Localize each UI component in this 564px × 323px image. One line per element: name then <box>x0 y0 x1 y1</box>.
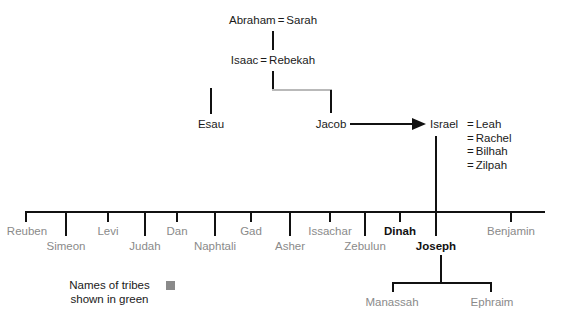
person-isaac-rebekah: Isaac=Rebekah <box>231 54 315 67</box>
person-sarah-label: Sarah <box>286 14 317 26</box>
israel-wife-row-3: =Bilhah <box>465 145 512 159</box>
equals-sign-wife-2: = <box>465 132 476 144</box>
equals-sign-wife-3: = <box>465 145 476 157</box>
equals-sign-wife-4: = <box>465 159 476 171</box>
grandchild-manassah: Manassah <box>365 296 418 308</box>
child-dinah: Dinah <box>384 225 416 237</box>
person-zilpah-label: Zilpah <box>476 159 507 171</box>
arrow-jacob-to-israel-head <box>412 118 426 130</box>
israel-wife-row-1: =Leah <box>465 118 512 132</box>
israel-wife-row-2: =Rachel <box>465 132 512 146</box>
child-benjamin: Benjamin <box>487 225 535 237</box>
person-bilhah-label: Bilhah <box>476 145 508 157</box>
child-issachar: Issachar <box>308 225 351 237</box>
child-joseph: Joseph <box>416 240 456 252</box>
equals-sign-isaac: = <box>258 54 269 66</box>
person-rachel-label: Rachel <box>476 132 512 144</box>
person-abraham-label: Abraham <box>229 14 276 26</box>
child-simeon: Simeon <box>47 240 86 252</box>
legend-line-2: shown in green <box>52 292 167 306</box>
child-asher: Asher <box>275 240 305 252</box>
legend: Names of tribes shown in green <box>52 278 167 306</box>
child-zebulun: Zebulun <box>344 240 386 252</box>
equals-sign-wife-1: = <box>465 118 476 130</box>
person-isaac-label: Isaac <box>231 54 259 66</box>
child-gad: Gad <box>240 225 262 237</box>
child-levi: Levi <box>97 225 118 237</box>
person-esau: Esau <box>198 118 224 131</box>
legend-color-swatch <box>166 281 175 290</box>
child-reuben: Reuben <box>7 225 47 237</box>
person-israel: Israel <box>430 118 458 131</box>
child-judah: Judah <box>129 240 160 252</box>
person-rebekah-label: Rebekah <box>269 54 315 66</box>
grandchild-ephraim: Ephraim <box>471 296 514 308</box>
person-jacob: Jacob <box>316 118 347 131</box>
equals-sign-abraham: = <box>276 14 287 26</box>
israel-wives-list: =Leah =Rachel =Bilhah =Zilpah <box>465 118 512 172</box>
legend-line-1: Names of tribes <box>52 278 167 292</box>
person-abraham-sarah: Abraham=Sarah <box>229 14 317 27</box>
genealogy-diagram: Abraham=Sarah Isaac=Rebekah Esau Jacob I… <box>0 0 564 323</box>
child-naphtali: Naphtali <box>194 240 236 252</box>
person-leah-label: Leah <box>476 118 502 130</box>
israel-wife-row-4: =Zilpah <box>465 159 512 173</box>
child-dan: Dan <box>166 225 187 237</box>
